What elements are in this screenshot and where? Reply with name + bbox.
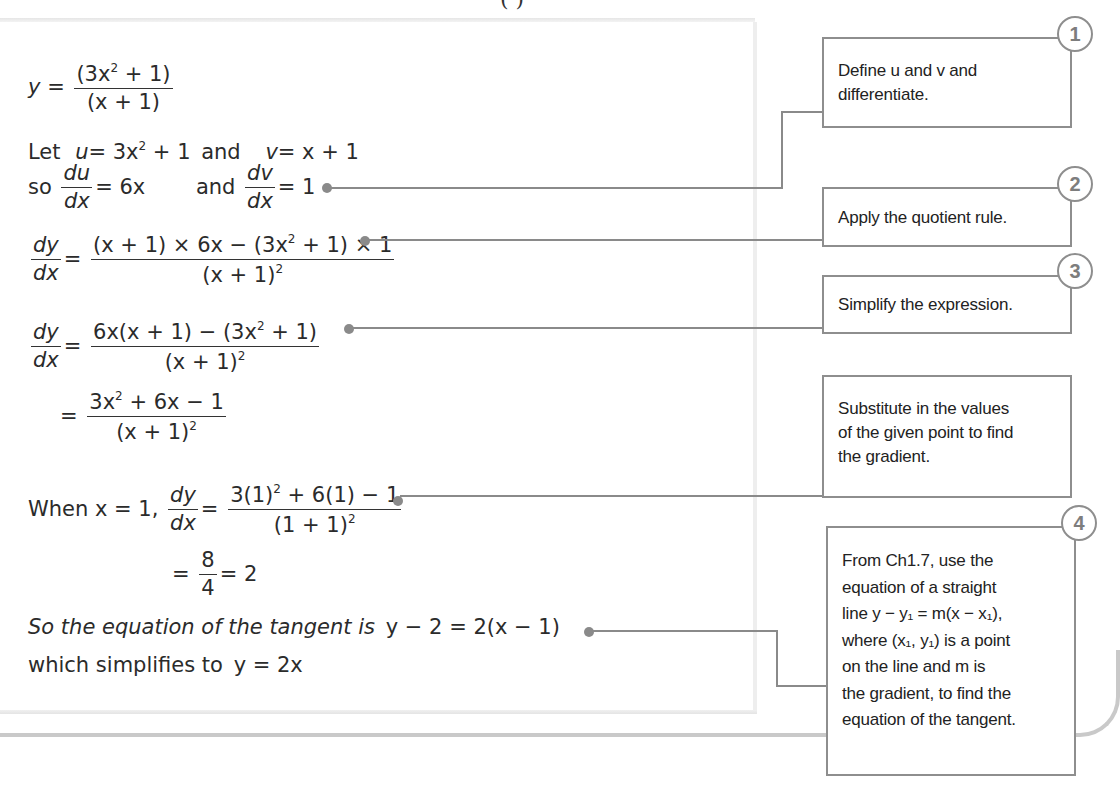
numerator: du [61,163,92,188]
connector-line [781,111,783,189]
tangent-equation-line: So the equation of the tangent is y − 2 … [28,617,560,638]
equation-derivatives-u-v: so du dx = 6x and dv dx = 1 [28,163,315,212]
fraction: 8 4 [199,550,216,599]
step-badge-3: 3 [1057,253,1093,289]
callout-text: Define u and v and [838,59,1056,83]
equation-substitution: When x = 1, dy dx = 3(1)2 + 6(1) − 1 (1 … [28,483,404,536]
equals-sign: = [64,334,82,358]
numerator-part: 3(1) [230,483,273,507]
simplifies-statement: which simplifies to [28,653,223,677]
connector-line [368,239,824,241]
simplified-equation: y = 2x [234,653,303,677]
u-rhs-tail: + 1 [146,140,190,164]
fraction: 6x(x + 1) − (3x2 + 1) (x + 1)2 [91,320,319,373]
dy-dx-fraction: dy dx [168,485,198,534]
connector-dot-3 [344,324,354,334]
numerator-part: 3x [89,390,115,414]
exponent: 2 [288,232,296,246]
numerator: 3(1)2 + 6(1) − 1 [228,483,401,510]
step-badge-4: 4 [1061,505,1097,541]
numerator: (3x2 + 1) [74,62,172,89]
equation-expanded: dy dx = 6x(x + 1) − (3x2 + 1) (x + 1)2 [28,320,322,373]
connector-line [592,630,778,632]
callout-simplify: Simplify the expression. [822,275,1072,334]
header-title-fragment: ( ) [500,0,524,11]
numerator-part: 6x(x + 1) − (3x [93,320,257,344]
connector-dot-substitute [393,496,403,506]
callout-text: where (x₁, y₁) is a point [842,628,1060,655]
exponent: 2 [348,512,356,526]
result: = 2 [220,562,258,586]
connector-line [352,327,822,329]
dy-dx-fraction: dy dx [31,235,61,284]
connector-line [330,187,783,189]
v-rhs: = x + 1 [278,140,359,164]
simplified-tangent-line: which simplifies to y = 2x [28,655,303,676]
equals-sign: = [172,562,190,586]
and-label: and [201,140,241,164]
denominator: dx [31,260,61,284]
connector-dot-4 [584,627,594,637]
denominator-base: (x + 1) [116,420,189,444]
callout-text: Apply the quotient rule. [838,206,1056,230]
du-dx-fraction: du dx [61,163,92,212]
and-label: and [196,175,236,199]
numerator: dy [168,485,198,510]
exponent: 2 [115,389,123,403]
so-label: so [28,175,52,199]
when-x-equals-label: When x = 1, [28,497,158,521]
dv-dx-fraction: dv dx [245,163,275,212]
numerator-part: + 1) [265,320,318,344]
equation-quotient-rule: dy dx = (x + 1) × 6x − (3x2 + 1) × 1 (x … [28,233,397,286]
equation-gradient-result: = 8 4 = 2 [172,550,257,599]
denominator-base: (1 + 1) [274,513,348,537]
equation-let-u-v: Let u= 3x2 + 1 and v= x + 1 [28,140,359,163]
du-rhs: = 6x [95,175,145,199]
exponent: 2 [275,262,283,276]
numerator-part: (x + 1) × 6x − (3x [93,233,288,257]
dv-rhs: = 1 [278,175,316,199]
connector-line [776,630,778,686]
numerator-base: (3x [76,62,110,86]
let-label: Let [28,140,60,164]
exponent: 2 [257,319,265,333]
denominator-base: (x + 1) [165,350,238,374]
equals-sign: = [60,404,78,428]
numerator-part: + 6x − 1 [123,390,224,414]
callout-text: of the given point to find [838,421,1056,445]
exponent: 2 [189,419,197,433]
callout-text: Substitute in the values [838,397,1056,421]
numerator: dy [31,235,61,260]
numerator: dy [31,322,61,347]
callout-text: on the line and m is [842,654,1060,681]
callout-substitute: Substitute in the values of the given po… [822,375,1072,498]
equation-y-definition: y = (3x2 + 1) (x + 1) [28,62,176,113]
dy-dx-fraction: dy dx [31,322,61,371]
callout-text: equation of a straight [842,575,1060,602]
fraction: 3x2 + 6x − 1 (x + 1)2 [87,390,225,443]
denominator: dx [62,188,92,212]
numerator: 3x2 + 6x − 1 [87,390,225,417]
callout-text: line y − y₁ = m(x − x₁), [842,601,1060,628]
numerator: dv [245,163,275,188]
exponent: 2 [273,482,281,496]
denominator: dx [245,188,275,212]
denominator-base: (x + 1) [202,263,275,287]
numerator: 6x(x + 1) − (3x2 + 1) [91,320,319,347]
denominator: 4 [199,575,216,599]
step-badge-2: 2 [1057,166,1093,202]
inner-panel-bottom-border [0,710,757,714]
denominator: (x + 1)2 [163,347,248,373]
fraction: (3x2 + 1) (x + 1) [74,62,172,113]
equals-sign: = [201,497,219,521]
numerator: 8 [199,550,216,575]
numerator-tail: + 1) [118,62,171,86]
denominator: (x + 1)2 [114,417,199,443]
fraction: 3(1)2 + 6(1) − 1 (1 + 1)2 [228,483,401,536]
variable-y: y [28,75,40,99]
connector-dot-2 [360,236,370,246]
u-rhs: = 3x [88,140,138,164]
inner-panel-top-border [0,18,755,22]
equation-simplified: = 3x2 + 6x − 1 (x + 1)2 [60,390,229,443]
numerator-part: + 6(1) − 1 [281,483,399,507]
